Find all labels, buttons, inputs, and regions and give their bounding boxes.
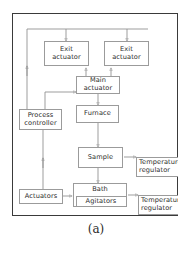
node-temperature-regulator-top[interactable]: Temperature regulator <box>136 157 178 177</box>
agitators-label: Agitators <box>86 198 117 206</box>
exit-actuator-left-line2: actuator <box>52 54 81 62</box>
node-process-controller[interactable]: Process controller <box>19 109 62 130</box>
main-actuator-line2: actuator <box>84 85 113 93</box>
exit-actuator-right-line2: actuator <box>112 54 141 62</box>
actuators-label: Actuators <box>25 193 58 201</box>
node-main-actuator[interactable]: Main actuator <box>76 76 120 94</box>
node-temperature-regulator-bottom[interactable]: Temperature regulator <box>138 195 178 215</box>
temp-regulator-top-line2: regulator <box>139 167 170 175</box>
node-exit-actuator-left[interactable]: Exit actuator <box>44 41 89 66</box>
node-actuators[interactable]: Actuators <box>19 189 63 204</box>
process-controller-line2: controller <box>24 120 56 128</box>
figure-caption: (a) <box>0 222 192 236</box>
bath-label: Bath <box>92 186 108 194</box>
furnace-label: Furnace <box>84 110 111 118</box>
temp-regulator-bottom-line2: regulator <box>141 205 172 213</box>
sample-label: Sample <box>88 154 113 162</box>
node-agitators[interactable]: Agitators <box>76 196 127 207</box>
node-furnace[interactable]: Furnace <box>76 105 119 123</box>
figure-root: Temperature regulator Temperature regula… <box>0 0 192 254</box>
node-sample[interactable]: Sample <box>78 147 123 168</box>
node-bath[interactable]: Bath Agitators <box>73 183 127 207</box>
node-exit-actuator-right[interactable]: Exit actuator <box>104 41 149 66</box>
